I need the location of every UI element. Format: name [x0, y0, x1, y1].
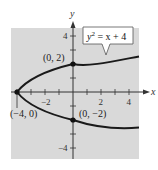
x-tick-label: 4 — [127, 97, 132, 107]
x-tick-label: −2 — [41, 97, 51, 107]
y-axis-label: y — [69, 8, 75, 19]
y-axis-arrow-icon — [71, 21, 76, 28]
plot-area — [11, 28, 139, 159]
point-0-2 — [70, 61, 75, 66]
y-tick-label: 4 — [63, 31, 68, 41]
x-axis-label: x — [150, 86, 156, 97]
y-tick-label: −4 — [58, 143, 68, 153]
x-axis-arrow-icon — [143, 90, 150, 95]
label-point-neg4-0: (−4, 0) — [10, 108, 37, 120]
parabola-chart: −2 2 4 x 4 −4 y (0, 2) (−4, 0) (0, −2) y… — [0, 0, 158, 170]
x-tick-label: 2 — [99, 97, 104, 107]
label-point-0-2: (0, 2) — [43, 52, 65, 64]
label-point-0-neg2: (0, −2) — [79, 108, 106, 120]
point-neg4-0 — [14, 89, 19, 94]
point-0-neg2 — [70, 117, 75, 122]
